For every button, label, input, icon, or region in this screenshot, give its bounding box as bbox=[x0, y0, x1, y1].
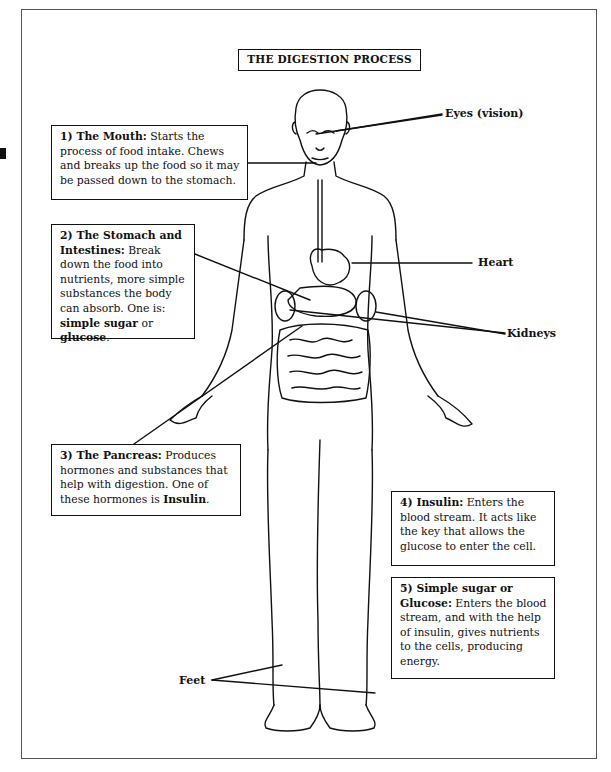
kidney-right bbox=[356, 291, 376, 321]
insulin-heading: 4) Insulin: bbox=[400, 496, 463, 509]
stomach-heading: 2) The Stomach and Intestines: bbox=[60, 229, 182, 257]
pancreas-heading: 3) The Pancreas: bbox=[60, 449, 162, 462]
neck-outline bbox=[244, 162, 306, 240]
pancreas-leader bbox=[134, 326, 302, 444]
feet-label: Feet bbox=[179, 674, 205, 687]
stomach-leader bbox=[195, 254, 310, 300]
kidney-left bbox=[275, 291, 295, 321]
eyes-leader-2 bbox=[316, 115, 442, 134]
eyes-label: Eyes (vision) bbox=[445, 107, 523, 120]
kidneys-label: Kidneys bbox=[507, 327, 556, 340]
kidneys-leader-2 bbox=[376, 312, 505, 334]
torso-outline bbox=[202, 240, 244, 396]
feet-leader-1 bbox=[212, 665, 282, 680]
heart-outline bbox=[310, 249, 349, 285]
stomach-text-end: . bbox=[106, 331, 109, 344]
pancreas-bold-term: Insulin bbox=[163, 493, 206, 506]
head-outline bbox=[295, 90, 347, 165]
pancreas-box: 3) The Pancreas: Produces hormones and s… bbox=[51, 444, 241, 516]
foot-right bbox=[320, 705, 375, 731]
feet-leader-2 bbox=[212, 680, 375, 693]
insulin-box: 4) Insulin: Enters the blood stream. It … bbox=[391, 491, 555, 566]
foot-left bbox=[265, 705, 320, 731]
stomach-text-mid: or bbox=[138, 317, 153, 330]
kidneys-leader-1 bbox=[290, 310, 505, 333]
stomach-outline bbox=[288, 286, 356, 316]
mouth-heading: 1) The Mouth: bbox=[60, 130, 147, 143]
intestines-outline bbox=[277, 324, 370, 403]
mouth-box: 1) The Mouth: Starts the process of food… bbox=[51, 125, 248, 200]
pancreas-text-end: . bbox=[206, 493, 209, 506]
heart-label: Heart bbox=[478, 256, 513, 269]
stomach-bold-term-1: simple sugar bbox=[60, 317, 138, 330]
stomach-intestines-box: 2) The Stomach and Intestines: Break dow… bbox=[51, 224, 195, 339]
stomach-bold-term-2: glucose bbox=[60, 331, 106, 344]
glucose-box: 5) Simple sugar or Glucose: Enters the b… bbox=[391, 577, 555, 679]
diagram-title: THE DIGESTION PROCESS bbox=[238, 49, 421, 71]
